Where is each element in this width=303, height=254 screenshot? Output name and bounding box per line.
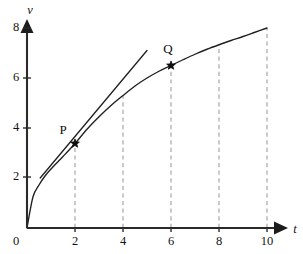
dashed-guide-group — [75, 28, 267, 228]
x-tick-label-4: 4 — [120, 234, 127, 248]
y-tick-label-8: 8 — [13, 20, 19, 34]
x-tick-label-8: 8 — [216, 234, 222, 248]
y-axis-label: v — [27, 3, 33, 17]
x-axis-label: t — [293, 222, 297, 236]
y-tick-label-4: 4 — [13, 120, 20, 134]
plot-canvas: 0 2 4 6 8 10 2 4 6 8 v t P Q — [0, 0, 303, 254]
velocity-time-graph-figure: 0 2 4 6 8 10 2 4 6 8 v t P Q — [0, 0, 303, 254]
y-tick-label-6: 6 — [13, 70, 19, 84]
tangent-line-at-P — [40, 51, 147, 179]
x-axis-arrowhead — [274, 222, 288, 235]
x-tick-label-0: 0 — [13, 234, 19, 248]
y-axis-arrowhead — [21, 19, 34, 33]
point-P-label: P — [59, 122, 66, 137]
x-tick-label-2: 2 — [72, 234, 78, 248]
y-tick-label-2: 2 — [13, 169, 19, 183]
x-tick-label-10: 10 — [261, 234, 274, 248]
point-Q: Q — [163, 41, 175, 70]
point-Q-label: Q — [163, 41, 173, 56]
x-tick-label-6: 6 — [168, 234, 174, 248]
